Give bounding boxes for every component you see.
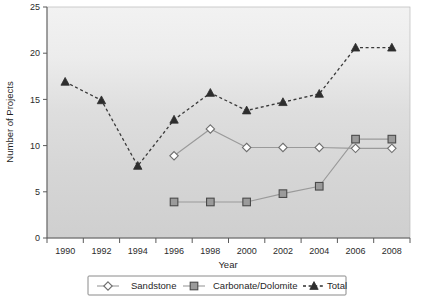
plot-area-background: [47, 7, 410, 238]
y-tick-label: 25: [30, 2, 40, 12]
x-tick-label: 2002: [273, 246, 293, 256]
x-tick-label: 1998: [200, 246, 220, 256]
data-point-marker: [207, 198, 215, 206]
data-point-marker: [388, 135, 396, 143]
x-tick-label: 2000: [237, 246, 257, 256]
y-tick-label: 5: [35, 187, 40, 197]
legend-label: Sandstone: [131, 280, 176, 291]
y-axis-title: Number of Projects: [4, 81, 15, 163]
legend-label: Total: [327, 280, 347, 291]
x-tick-label: 1992: [91, 246, 111, 256]
y-axis-ticks: 0510152025: [30, 2, 47, 243]
x-axis-title: Year: [218, 259, 237, 270]
data-point-marker: [243, 198, 251, 206]
y-tick-label: 20: [30, 48, 40, 58]
data-point-marker: [279, 190, 287, 198]
x-tick-label: 1996: [164, 246, 184, 256]
x-tick-label: 2008: [382, 246, 402, 256]
legend-label: Carbonate/Dolomite: [213, 280, 298, 291]
x-tick-label: 1994: [128, 246, 148, 256]
legend-square-marker: [190, 282, 198, 290]
x-axis-ticks: 1990199219941996199820002002200420062008: [47, 238, 410, 256]
line-chart: 0510152025 19901992199419961998200020022…: [0, 0, 423, 301]
x-tick-label: 1990: [55, 246, 75, 256]
y-tick-label: 10: [30, 141, 40, 151]
legend-item-sandstone[interactable]: Sandstone: [97, 280, 176, 291]
x-tick-label: 2006: [346, 246, 366, 256]
data-point-marker: [170, 198, 178, 206]
chart-container: 0510152025 19901992199419961998200020022…: [0, 0, 423, 301]
y-tick-label: 0: [35, 233, 40, 243]
x-tick-label: 2004: [309, 246, 329, 256]
data-point-marker: [352, 135, 360, 143]
y-tick-label: 15: [30, 95, 40, 105]
data-point-marker: [315, 182, 323, 190]
